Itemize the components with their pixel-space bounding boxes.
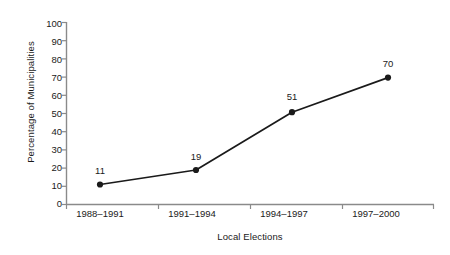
line-chart: Percentage of Municipalities 0 10 20 30 … (0, 0, 450, 255)
data-point-4 (385, 75, 391, 81)
series-line (100, 78, 388, 185)
plot-area (0, 0, 450, 255)
data-point-2 (193, 167, 199, 173)
data-point-3 (289, 109, 295, 115)
data-point-1 (97, 181, 103, 187)
